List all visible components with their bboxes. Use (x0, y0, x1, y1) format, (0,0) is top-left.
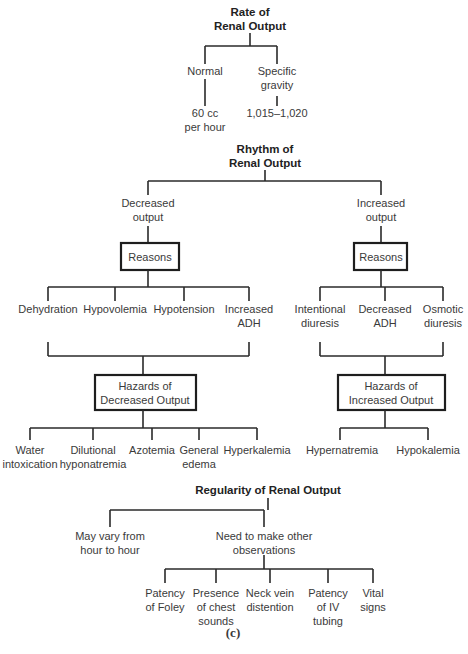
decreased-output-label: Decreased output (121, 196, 174, 224)
hazard-water-intoxication: Water intoxication (2, 443, 57, 471)
rate-specific-gravity-value: 1,015–1,020 (246, 106, 307, 120)
reason-dehydration: Dehydration (18, 302, 77, 316)
rate-normal-label: Normal (187, 64, 222, 78)
hazard-dilutional-hyponatremia: Dilutional hyponatremia (60, 443, 127, 471)
figure-label: (c) (226, 626, 240, 640)
increased-output-label: Increased output (357, 196, 405, 224)
reason-hypovolemia: Hypovolemia (83, 302, 147, 316)
rhythm-title: Rhythm of Renal Output (229, 142, 301, 170)
hazard-hyperkalemia: Hyperkalemia (223, 443, 290, 457)
renal-output-diagram: Rate of Renal Output Normal Specific gra… (0, 0, 468, 654)
reasons-increased-label: Reasons (359, 250, 402, 264)
reason-intentional-diuresis: Intentional diuresis (295, 302, 346, 330)
hazard-hypokalemia: Hypokalemia (396, 443, 460, 457)
observations-label: Need to make other observations (216, 529, 313, 557)
hazards-decreased-label: Hazards of Decreased Output (100, 379, 189, 407)
obs-chest-sounds: Presence of chest sounds (193, 586, 239, 628)
obs-patency-of-iv-tubing: Patency of IV tubing (308, 586, 348, 628)
hazard-hypernatremia: Hypernatremia (306, 443, 378, 457)
reason-osmotic-diuresis: Osmotic diuresis (423, 302, 463, 330)
rate-normal-value: 60 cc per hour (185, 106, 226, 134)
regularity-title: Regularity of Renal Output (195, 483, 341, 497)
reasons-decreased-label: Reasons (128, 250, 171, 264)
reason-decreased-adh: Decreased ADH (358, 302, 411, 330)
hazards-increased-label: Hazards of Increased Output (349, 379, 433, 407)
obs-neck-vein-distention: Neck vein distention (246, 586, 294, 614)
hazard-azotemia: Azotemia (129, 443, 175, 457)
may-vary-label: May vary from hour to hour (75, 529, 145, 557)
obs-patency-of-foley: Patency of Foley (145, 586, 185, 614)
obs-vital-signs: Vital signs (360, 586, 386, 614)
hazard-general-edema: General edema (179, 443, 218, 471)
reason-increased-adh: Increased ADH (225, 302, 273, 330)
rate-specific-gravity-label: Specific gravity (258, 64, 297, 92)
reason-hypotension: Hypotension (153, 302, 214, 316)
rate-title: Rate of Renal Output (214, 5, 286, 33)
